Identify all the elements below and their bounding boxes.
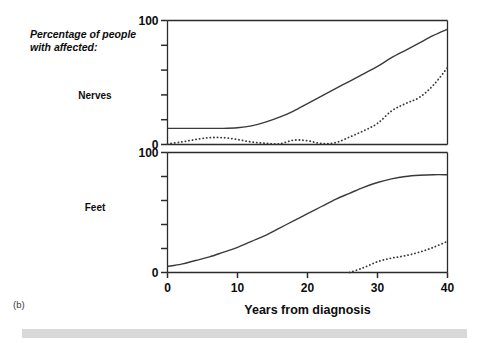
curve-feet-solid [168, 175, 448, 267]
footer-bar [22, 329, 467, 338]
data-curves [168, 29, 448, 272]
axis-ticks [161, 21, 448, 279]
figure-b: Percentage of people with affected: Nerv… [0, 0, 489, 343]
x-tick-label: 30 [371, 281, 385, 295]
curve-nerves-dashed [168, 68, 448, 144]
x-tick-label: 20 [301, 281, 315, 295]
y-tick-label: 0 [152, 266, 159, 280]
axis-tick-labels: 10001000010203040Years from diagnosis [138, 14, 454, 317]
x-tick-label: 0 [164, 281, 171, 295]
x-tick-label: 10 [231, 281, 245, 295]
y-tick-label: 100 [138, 14, 158, 28]
y-tick-label: 100 [138, 146, 158, 160]
curve-nerves-solid [168, 29, 448, 128]
axis-frame [168, 21, 448, 273]
x-tick-label: 40 [441, 281, 455, 295]
chart-plot: 10001000010203040Years from diagnosis [0, 0, 489, 343]
figure-caption: (b) [13, 299, 25, 310]
x-axis-title: Years from diagnosis [244, 303, 370, 317]
curve-feet-dashed [350, 241, 448, 272]
